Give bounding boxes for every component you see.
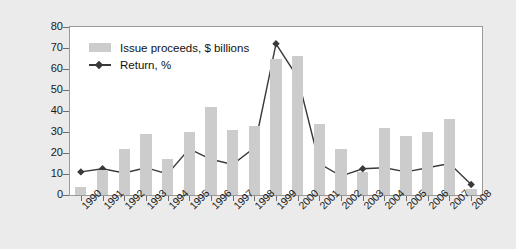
- y-tick-label: 60: [41, 63, 63, 73]
- bar: [119, 149, 130, 195]
- data-point-marker: [272, 40, 279, 47]
- bar: [400, 136, 411, 195]
- chart-figure: 80706050403020100 Issue proceeds, $ bill…: [0, 0, 516, 249]
- y-tick-label: 80: [41, 21, 63, 31]
- bar: [314, 124, 325, 195]
- y-tick-label: 20: [41, 147, 63, 157]
- bar: [227, 130, 238, 195]
- bar: [270, 59, 281, 196]
- bar: [184, 132, 195, 195]
- data-point-marker: [77, 168, 84, 175]
- chart-legend: Issue proceeds, $ billions Return, %: [89, 40, 249, 74]
- y-tick-label: 50: [41, 84, 63, 94]
- y-tick-label: 10: [41, 168, 63, 178]
- bar-swatch-icon: [89, 43, 111, 52]
- bar: [444, 119, 455, 195]
- y-axis-tick-labels: 80706050403020100: [39, 26, 63, 196]
- bar: [422, 132, 433, 195]
- legend-item-return: Return, %: [89, 57, 249, 72]
- y-tick-label: 40: [41, 105, 63, 115]
- y-tick-label: 70: [41, 42, 63, 52]
- bar: [140, 134, 151, 195]
- legend-label-issue-proceeds: Issue proceeds, $ billions: [120, 42, 249, 54]
- legend-item-issue-proceeds: Issue proceeds, $ billions: [89, 40, 249, 55]
- bar: [379, 128, 390, 195]
- y-tick-label: 30: [41, 126, 63, 136]
- bar: [205, 107, 216, 195]
- bar: [335, 149, 346, 195]
- legend-label-return: Return, %: [120, 59, 171, 71]
- bar: [292, 56, 303, 195]
- y-tick-label: 0: [41, 189, 63, 199]
- bar: [249, 126, 260, 195]
- line-diamond-icon: [89, 60, 111, 69]
- bar: [75, 187, 86, 195]
